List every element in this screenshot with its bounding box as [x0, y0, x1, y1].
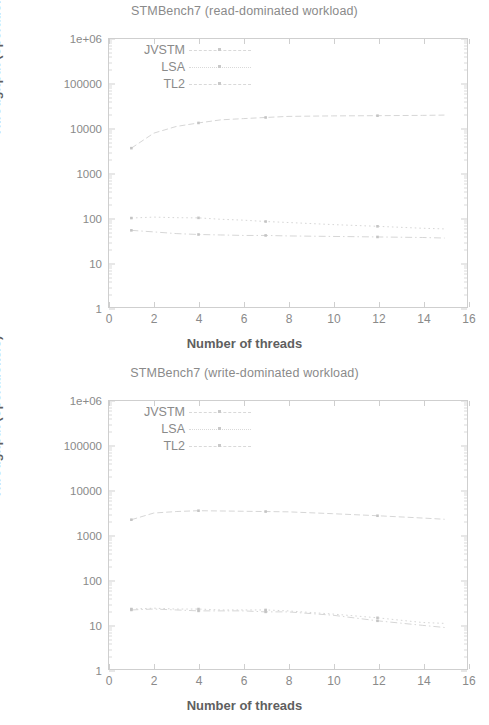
y-tick-minor [109, 514, 112, 515]
x-tick-major [379, 302, 380, 307]
x-tick-label: 12 [372, 674, 385, 688]
chart-title-write: STMBench7 (write-dominated workload) [0, 366, 489, 380]
series-marker-jvstm [130, 147, 133, 150]
y-tick-minor [464, 56, 467, 57]
y-tick-major [461, 536, 467, 537]
y-tick-minor [464, 268, 467, 269]
y-tick-minor [464, 223, 467, 224]
series-marker-jvstm [197, 509, 200, 512]
y-tick-minor [109, 604, 112, 605]
y-tick-minor [464, 612, 467, 613]
y-tick-minor [464, 146, 467, 147]
y-tick-major [461, 174, 467, 175]
y-tick-minor [464, 236, 467, 237]
legend-item-tl2: TL2 [115, 437, 251, 454]
y-tick-minor [464, 142, 467, 143]
y-tick-minor [109, 236, 112, 237]
y-tick-minor [109, 469, 112, 470]
y-tick-label: 1 [96, 665, 102, 677]
y-tick-minor [109, 86, 112, 87]
x-tick-label: 10 [327, 312, 340, 326]
y-tick-label: 100 [83, 213, 102, 225]
y-tick-major [461, 446, 467, 447]
y-tick-minor [109, 228, 112, 229]
y-tick-minor [109, 187, 112, 188]
y-tick-minor [109, 273, 112, 274]
legend-label-tl2: TL2 [115, 439, 189, 453]
series-line-jvstm [131, 115, 444, 148]
x-tick-major [244, 401, 245, 406]
y-tick-minor [464, 232, 467, 233]
y-tick-minor [109, 142, 112, 143]
y-tick-minor [109, 649, 112, 650]
y-tick-minor [109, 52, 112, 53]
x-tick-major [469, 664, 470, 669]
chart-title-read: STMBench7 (read-dominated workload) [0, 4, 489, 18]
y-tick-minor [464, 295, 467, 296]
y-tick-minor [464, 97, 467, 98]
x-tick-major [154, 302, 155, 307]
y-tick-minor [464, 403, 467, 404]
figure-read-dominated: STMBench7 (read-dominated workload) Thro… [0, 0, 489, 362]
y-tick-label: 100000 [64, 78, 102, 90]
y-tick-major [461, 491, 467, 492]
y-tick-minor [109, 549, 112, 550]
y-tick-minor [464, 131, 467, 132]
y-tick-minor [109, 657, 112, 658]
y-tick-minor [109, 115, 112, 116]
y-tick-major [461, 264, 467, 265]
y-tick-minor [464, 90, 467, 91]
x-tick-major [334, 664, 335, 669]
y-tick-major [461, 39, 467, 40]
y-tick-major [109, 174, 115, 175]
y-tick-minor [464, 48, 467, 49]
series-marker-tl2 [130, 229, 133, 232]
y-tick-minor [464, 418, 467, 419]
x-tick-major [199, 401, 200, 406]
y-tick-minor [109, 540, 112, 541]
y-tick-minor [464, 459, 467, 460]
y-tick-minor [109, 410, 112, 411]
y-tick-label: 10000 [70, 485, 102, 497]
x-tick-major [469, 302, 470, 307]
x-tick-label: 8 [286, 312, 293, 326]
x-tick-major [199, 39, 200, 44]
series-line-tl2 [131, 609, 444, 627]
y-tick-major [461, 626, 467, 627]
x-tick-major [289, 302, 290, 307]
y-tick-minor [464, 452, 467, 453]
series-marker-lsa [376, 225, 379, 228]
y-tick-label: 1e+06 [70, 395, 102, 407]
y-tick-label: 1 [96, 303, 102, 315]
y-tick-minor [464, 643, 467, 644]
x-tick-major [244, 39, 245, 44]
y-tick-minor [464, 273, 467, 274]
y-tick-minor [464, 553, 467, 554]
y-tick-major [461, 219, 467, 220]
y-tick-minor [464, 115, 467, 116]
x-tick-label: 0 [106, 674, 113, 688]
x-tick-major [244, 302, 245, 307]
y-tick-minor [464, 281, 467, 282]
y-tick-minor [464, 41, 467, 42]
y-tick-minor [464, 495, 467, 496]
y-tick-minor [109, 70, 112, 71]
series-marker-lsa [264, 220, 267, 223]
series-line-lsa [131, 217, 444, 229]
x-tick-major [424, 664, 425, 669]
x-tick-major [109, 39, 110, 44]
legend-item-lsa: LSA [115, 420, 251, 437]
y-tick-minor [109, 281, 112, 282]
legend-label-tl2: TL2 [115, 77, 189, 91]
y-tick-minor [109, 266, 112, 267]
y-tick-minor [464, 549, 467, 550]
y-tick-minor [464, 583, 467, 584]
y-tick-minor [109, 545, 112, 546]
y-tick-label: 10 [89, 620, 102, 632]
y-tick-minor [464, 133, 467, 134]
legend-item-lsa: LSA [115, 58, 251, 75]
legend-label-jvstm: JVSTM [115, 405, 189, 419]
x-tick-label: 14 [417, 312, 430, 326]
y-tick-minor [109, 628, 112, 629]
x-tick-major [334, 401, 335, 406]
